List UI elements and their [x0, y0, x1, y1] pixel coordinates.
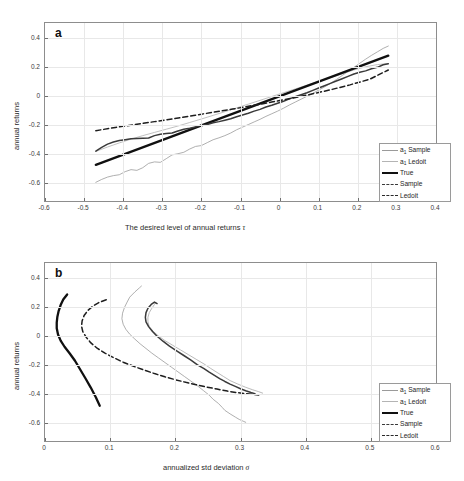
sigma-symbol: σ	[246, 463, 250, 472]
gridline-h	[45, 183, 436, 184]
x-tick	[110, 438, 111, 441]
legend-b: a1 Samplea1 LedoitTrueSampleLedoit	[379, 383, 451, 442]
legend-line-swatch	[382, 407, 399, 418]
legend-item-1[interactable]: a1 Ledoit	[380, 155, 450, 166]
series-a-1-ledoit	[148, 303, 263, 393]
legend-label: Ledoit	[400, 432, 418, 439]
x-tick-label: 0.5	[365, 444, 374, 451]
legend-line-swatch	[382, 178, 399, 189]
legend-line-swatch	[382, 144, 399, 155]
legend-line-swatch	[382, 384, 399, 395]
gridline-v	[123, 23, 124, 201]
y-tick-label: -0.6	[18, 179, 40, 186]
x-tick	[123, 198, 124, 201]
x-tick	[371, 438, 372, 441]
y-tick	[45, 183, 48, 184]
gridline-v	[241, 23, 242, 201]
y-tick-label: -0.4	[18, 150, 40, 157]
legend-item-2[interactable]: True	[380, 167, 450, 178]
gridline-h	[45, 394, 436, 395]
legend-line-swatch	[382, 156, 399, 167]
gridline-v	[280, 23, 281, 201]
x-tick	[201, 198, 202, 201]
legend-item-1[interactable]: a1 Ledoit	[380, 395, 450, 406]
gridline-h	[45, 336, 436, 337]
gridline-v	[201, 23, 202, 201]
x-tick	[84, 198, 85, 201]
x-tick-label: 0	[277, 204, 281, 211]
tau-symbol: τ	[243, 223, 246, 232]
y-tick-label: -0.6	[18, 419, 40, 426]
series-true	[96, 56, 388, 165]
legend-line-swatch	[382, 418, 399, 429]
legend-label: Sample	[400, 180, 422, 187]
y-tick-label: 0.4	[18, 273, 40, 280]
y-tick-label: 0.4	[18, 33, 40, 40]
gridline-v	[110, 263, 111, 441]
gridline-v	[162, 23, 163, 201]
legend-label: Sample	[400, 420, 422, 427]
legend-label-subscript: 1	[404, 161, 407, 166]
x-axis-title-b-text: annualized std deviation	[163, 463, 246, 472]
x-tick-label: -0.4	[117, 204, 128, 211]
x-tick	[280, 198, 281, 201]
x-tick	[45, 198, 46, 201]
y-tick	[45, 38, 48, 39]
legend-item-4[interactable]: Ledoit	[380, 430, 450, 441]
gridline-h	[45, 365, 436, 366]
y-tick-label: -0.4	[18, 390, 40, 397]
legend-line	[382, 161, 398, 162]
gridline-h	[45, 423, 436, 424]
y-tick	[45, 125, 48, 126]
legend-item-4[interactable]: Ledoit	[380, 190, 450, 201]
x-tick-label: 0.4	[430, 204, 439, 211]
panel-a: a annual returns The desired level of an…	[0, 0, 464, 240]
legend-label: Ledoit	[400, 192, 418, 199]
figure-root: a annual returns The desired level of an…	[0, 0, 464, 481]
legend-item-3[interactable]: Sample	[380, 418, 450, 429]
legend-line	[382, 172, 398, 174]
x-tick-label: 0.3	[391, 204, 400, 211]
gridline-v	[175, 263, 176, 441]
x-tick	[175, 438, 176, 441]
y-tick	[45, 365, 48, 366]
legend-line	[382, 424, 398, 425]
x-tick-label: 0.1	[105, 444, 114, 451]
legend-line	[382, 150, 398, 151]
x-tick	[306, 438, 307, 441]
x-axis-title-a-text: The desired level of annual returns	[125, 223, 243, 232]
x-tick-label: 0.6	[430, 444, 439, 451]
legend-line-swatch	[382, 167, 399, 178]
gridline-v	[358, 23, 359, 201]
series-true	[57, 295, 100, 406]
legend-label: a1 Ledoit	[400, 398, 426, 405]
legend-item-0[interactable]: a1 Sample	[380, 144, 450, 155]
legend-line-swatch	[382, 396, 399, 407]
x-tick-label: 0.4	[300, 444, 309, 451]
legend-item-2[interactable]: True	[380, 407, 450, 418]
legend-line-swatch	[382, 430, 399, 441]
x-tick	[241, 438, 242, 441]
gridline-h	[45, 307, 436, 308]
x-tick	[319, 198, 320, 201]
gridline-h	[45, 154, 436, 155]
series-sample	[145, 302, 254, 394]
x-tick	[358, 198, 359, 201]
y-tick	[45, 307, 48, 308]
legend-line	[382, 401, 398, 402]
x-tick-label: 0.3	[235, 444, 244, 451]
legend-label: a1 Ledoit	[400, 158, 426, 165]
legend-label-subscript: 1	[404, 150, 407, 155]
legend-line	[382, 195, 398, 196]
panel-label-a: a	[55, 26, 62, 40]
legend-label: True	[400, 409, 413, 416]
legend-line	[382, 435, 398, 436]
y-tick-label: 0.2	[18, 302, 40, 309]
x-tick-label: 0.2	[352, 204, 361, 211]
legend-label: a1 Sample	[400, 386, 431, 393]
x-tick-label: 0.2	[170, 444, 179, 451]
gridline-h	[45, 38, 436, 39]
y-tick-label: -0.2	[18, 121, 40, 128]
legend-item-3[interactable]: Sample	[380, 178, 450, 189]
legend-item-0[interactable]: a1 Sample	[380, 384, 450, 395]
